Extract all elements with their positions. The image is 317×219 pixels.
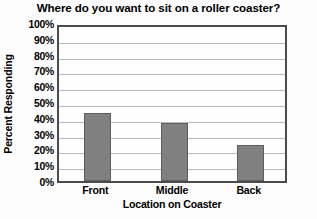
bar-chart: Where do you want to sit on a roller coa… <box>0 0 317 219</box>
x-axis-title: Location on Coaster <box>57 198 287 211</box>
y-tick-label: 80% <box>14 52 54 62</box>
bar <box>237 145 264 181</box>
bar <box>161 123 188 181</box>
bar <box>84 113 111 181</box>
y-tick-label: 10% <box>14 162 54 172</box>
x-axis-tick-labels: FrontMiddleBack <box>57 184 287 198</box>
y-tick-label: 40% <box>14 115 54 125</box>
y-tick-label: 0% <box>14 178 54 188</box>
y-tick-label: 20% <box>14 146 54 156</box>
y-tick-label: 90% <box>14 36 54 46</box>
y-axis-tick-labels: 100%90%80%70%60%50%40%30%20%10%0% <box>14 25 56 183</box>
x-tick-label: Middle <box>134 184 211 197</box>
y-tick-label: 70% <box>14 67 54 77</box>
x-tick-label: Front <box>57 184 134 197</box>
y-tick-label: 30% <box>14 131 54 141</box>
plot-area <box>57 25 287 183</box>
x-tick-label: Back <box>210 184 287 197</box>
chart-title: Where do you want to sit on a roller coa… <box>0 0 317 15</box>
y-tick-label: 60% <box>14 83 54 93</box>
y-tick-label: 100% <box>14 20 54 30</box>
y-tick-label: 50% <box>14 99 54 109</box>
y-axis-title: Percent Responding <box>2 54 14 153</box>
bar-series <box>59 27 285 181</box>
